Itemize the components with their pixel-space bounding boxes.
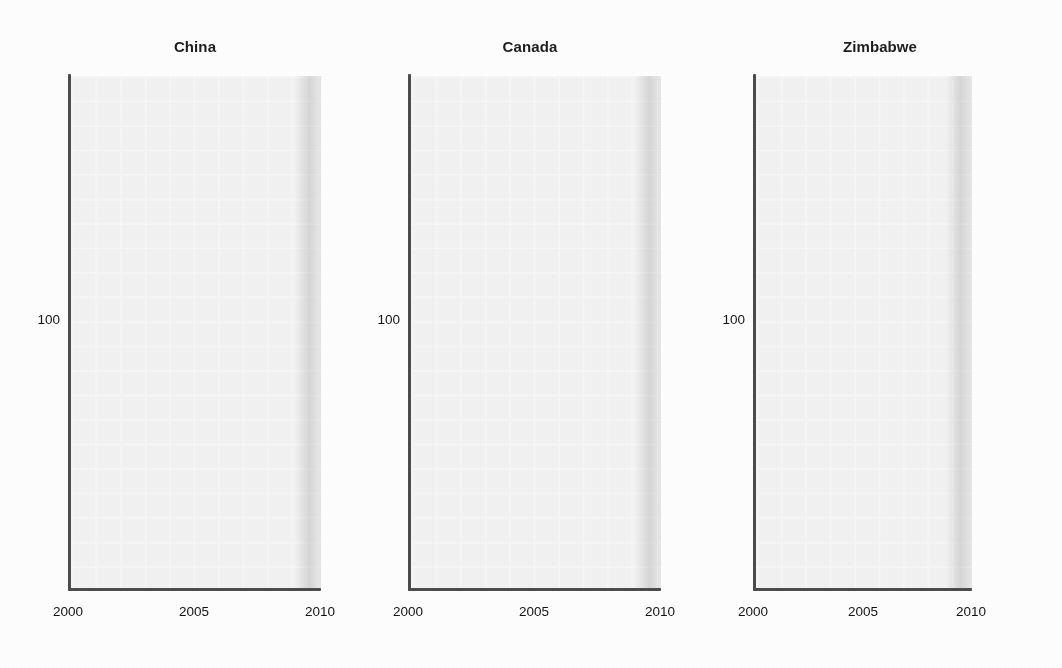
facet-title-zimbabwe: Zimbabwe bbox=[540, 38, 1062, 55]
facet-panel-china: China 100 2000 2005 2010 bbox=[0, 0, 340, 668]
x-tick-label-2000-zimbabwe: 2000 bbox=[725, 604, 781, 619]
facet-panel-zimbabwe: Zimbabwe 100 2000 2005 2010 bbox=[685, 0, 1025, 668]
x-tick-label-2000-china: 2000 bbox=[40, 604, 96, 619]
panel-tint bbox=[756, 76, 972, 589]
x-tick-label-2000-canada: 2000 bbox=[380, 604, 436, 619]
plot-area-canada bbox=[411, 76, 661, 589]
panel-tint bbox=[411, 76, 661, 589]
x-tick-label-2005-zimbabwe: 2005 bbox=[835, 604, 891, 619]
x-axis-line-china bbox=[68, 588, 321, 591]
y-tick-label-100-canada: 100 bbox=[348, 312, 400, 327]
x-axis-line-canada bbox=[408, 588, 661, 591]
plot-area-china bbox=[71, 76, 321, 589]
x-tick-label-2005-canada: 2005 bbox=[506, 604, 562, 619]
y-tick-label-100-zimbabwe: 100 bbox=[693, 312, 745, 327]
y-tick-label-100-china: 100 bbox=[8, 312, 60, 327]
x-axis-line-zimbabwe bbox=[753, 588, 972, 591]
x-tick-label-2010-zimbabwe: 2010 bbox=[943, 604, 999, 619]
panel-edge-shading bbox=[295, 76, 321, 589]
panel-edge-shading bbox=[635, 76, 661, 589]
plot-area-zimbabwe bbox=[756, 76, 972, 589]
panel-edge-shading bbox=[946, 76, 972, 589]
facet-chart-figure: China 100 2000 2005 2010 Canada 100 2000… bbox=[0, 0, 1062, 668]
y-axis-line-canada bbox=[408, 74, 411, 591]
y-axis-line-zimbabwe bbox=[753, 74, 756, 591]
panel-tint bbox=[71, 76, 321, 589]
y-axis-line-china bbox=[68, 74, 71, 591]
x-tick-label-2005-china: 2005 bbox=[166, 604, 222, 619]
facet-panel-canada: Canada 100 2000 2005 2010 bbox=[340, 0, 680, 668]
x-tick-label-2010-canada: 2010 bbox=[632, 604, 688, 619]
